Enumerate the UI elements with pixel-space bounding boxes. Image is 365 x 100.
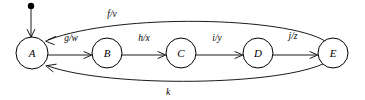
transition-c-d-label: i/y [212, 33, 222, 43]
transition-c-d[interactable]: i/y [196, 33, 243, 58]
state-c-label: C [177, 47, 185, 59]
state-node-e[interactable]: E [318, 38, 348, 68]
initial-state-dot [28, 3, 34, 9]
state-e-label: E [329, 47, 337, 59]
state-d-label: D [253, 47, 262, 59]
transition-b-c[interactable]: h/x [122, 33, 166, 58]
transition-e-a-upper-label: f/v [107, 9, 117, 19]
state-b-label: B [104, 47, 111, 59]
transition-b-c-label: h/x [138, 33, 150, 43]
state-node-b[interactable]: B [92, 38, 122, 68]
transition-e-a-upper-curve [48, 21, 325, 41]
transition-e-a-lower-label: k [166, 87, 171, 97]
fsm-diagram: g/w h/x i/y j/z f/v [0, 0, 365, 100]
state-node-c[interactable]: C [166, 38, 196, 68]
initial-state-marker [27, 3, 35, 37]
state-a-label: A [28, 47, 36, 59]
fsm-canvas: g/w h/x i/y j/z f/v [0, 0, 365, 100]
state-node-a[interactable]: A [16, 37, 48, 69]
transition-d-e-label: j/z [287, 31, 298, 41]
state-node-d[interactable]: D [243, 38, 273, 68]
